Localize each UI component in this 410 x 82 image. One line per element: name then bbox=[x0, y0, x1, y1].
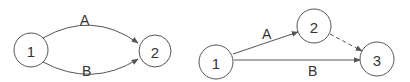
node-1-label: 1 bbox=[212, 55, 220, 72]
node-2-label: 2 bbox=[310, 19, 318, 36]
node-1: 1 bbox=[199, 45, 233, 79]
node-2: 2 bbox=[139, 35, 171, 67]
edge-label-a: A bbox=[262, 26, 272, 42]
edge-dummy-2-to-3 bbox=[330, 34, 362, 51]
edge-label-a: A bbox=[80, 12, 90, 28]
edge-label-b: B bbox=[308, 63, 317, 79]
edge-label-b: B bbox=[82, 63, 91, 79]
parallel-edges-graph: A B 1 2 bbox=[14, 12, 171, 79]
node-3-label: 3 bbox=[373, 52, 381, 69]
node-1-label: 1 bbox=[27, 43, 35, 60]
node-2: 2 bbox=[297, 9, 331, 43]
dummy-edge-graph: A B 1 2 3 bbox=[199, 9, 394, 79]
node-2-label: 2 bbox=[151, 44, 159, 61]
network-diagrams: A B 1 2 A B 1 2 3 bbox=[0, 0, 410, 82]
node-1: 1 bbox=[14, 33, 48, 67]
edge-a-1-to-2 bbox=[43, 25, 138, 43]
node-3: 3 bbox=[360, 42, 394, 76]
